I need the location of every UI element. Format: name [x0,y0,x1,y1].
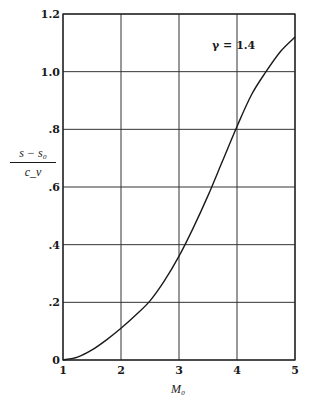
y-tick-label: 1.2 [41,8,60,21]
x-tick-label: 3 [175,364,183,377]
x-tick-label: 1 [59,364,67,377]
x-tick-labels: 12345 [59,364,299,377]
y-axis-label-numerator: s − s₀ [10,146,56,163]
y-tick-label: 1.0 [41,66,60,79]
y-tick-label: .6 [49,181,61,194]
y-axis-label-denominator: c_v [10,163,56,179]
y-axis-label: s − s₀ c_v [10,146,56,179]
y-tick-label: 0 [52,354,60,367]
y-tick-label: .8 [49,123,61,136]
x-tick-label: 5 [291,364,299,377]
grid-lines [63,14,295,360]
gamma-annotation: γ = 1.4 [212,39,256,52]
y-tick-label: .4 [49,239,61,252]
x-axis-label: M₀ [166,382,190,397]
y-tick-label: .2 [49,296,60,309]
chart-canvas: 12345 0.2.4.6.81.01.2 γ = 1.4 [0,0,313,409]
x-tick-label: 4 [233,364,241,377]
y-tick-labels: 0.2.4.6.81.01.2 [41,8,60,367]
x-tick-label: 2 [117,364,125,377]
